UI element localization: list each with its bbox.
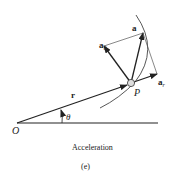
origin-label: O [12,125,19,136]
construction-line [143,33,157,74]
a-theta-label: aθ [99,40,107,51]
a-label: a [132,23,137,33]
particle-p [127,79,134,86]
a-r-label: ar [158,77,166,88]
subcaption: (e) [81,162,90,171]
acceleration-diagram: O θ r P a aθ ar Acceleration (e) [0,0,177,175]
radial-acceleration-vector [131,74,157,83]
theta-arc [61,110,62,123]
caption: Acceleration [72,143,113,152]
construction-line [104,33,143,46]
r-label: r [71,90,75,100]
theta-label: θ [66,112,71,122]
acceleration-vector-a [131,33,143,83]
trajectory-curve [100,15,148,108]
transverse-acceleration-vector [104,46,131,83]
p-label: P [133,87,140,98]
